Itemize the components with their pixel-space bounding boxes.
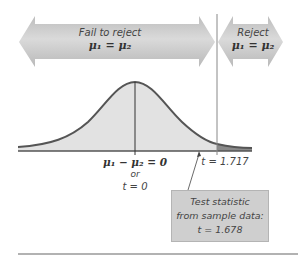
box-line-2: from sample data: [172,209,268,223]
fail-to-reject-equation: μ₁ = μ₂ [60,39,160,52]
fail-to-reject-label: Fail to reject μ₁ = μ₂ [60,27,160,52]
critical-value-label: t = 1.717 [200,155,250,169]
fail-to-reject-title: Fail to reject [60,27,160,38]
box-line-3: t = 1.678 [172,223,268,237]
box-line-1: Test statistic [172,195,268,209]
reject-title: Reject [228,27,278,38]
center-equation: μ₁ − μ₂ = 0 [95,155,175,169]
t-distribution-area [18,82,217,151]
reject-equation: μ₁ = μ₂ [228,39,278,52]
center-t-zero: t = 0 [95,180,175,194]
test-statistic-pointer [188,154,199,190]
center-or: or [95,169,175,180]
center-labels: μ₁ − μ₂ = 0 or t = 0 [95,155,175,194]
test-statistic-box: Test statistic from sample data: t = 1.6… [171,190,269,242]
reject-label: Reject μ₁ = μ₂ [228,27,278,52]
